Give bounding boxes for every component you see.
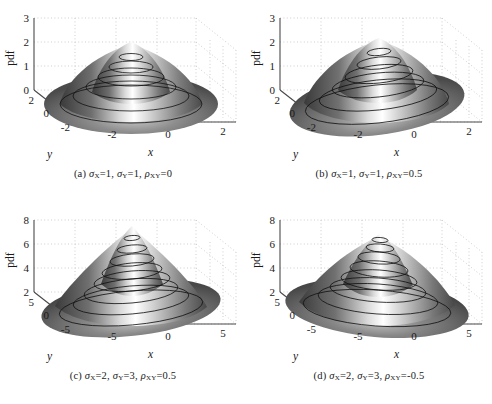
panel-d-ytick-0: 5 [275, 296, 281, 308]
panel-d-xtick-2: 5 [466, 327, 472, 339]
panel-c-ztick-2: 6 [24, 238, 30, 250]
panel-b-ytick-2: -2 [307, 121, 316, 133]
panel-a-sigma-x-value: =1, [100, 168, 114, 179]
panel-d-xtick-1: 0 [411, 330, 417, 342]
panel-a-ytick-1: 0 [44, 107, 50, 119]
panel-c-ztick-3: 8 [24, 214, 30, 226]
panel-b-z-ticks: 3 2 1 0 [270, 12, 276, 96]
panel-a-y-axis-label: y [46, 148, 53, 161]
panel-b-caption-prefix: (b) [315, 168, 328, 179]
panel-c-x-axis-label: x [147, 348, 154, 360]
figure-panel-grid: 3 2 1 0 2 0 -2 -2 0 2 pdf y [0, 0, 492, 404]
panel-a-plot: 3 2 1 0 2 0 -2 -2 0 2 pdf y [0, 0, 246, 170]
panel-d-xtick-0: -5 [353, 330, 363, 342]
panel-b-y-axis-label: y [292, 148, 299, 161]
panel-b: 3 2 1 0 2 0 -2 -2 0 2 pdf y x [246, 0, 492, 202]
panel-d-ztick-1: 4 [270, 262, 276, 274]
panel-b-rho-value: =0.5 [403, 168, 423, 179]
panel-a-rho-value: =0 [161, 168, 173, 179]
panel-c-y-axis-label: y [46, 350, 53, 363]
panel-c-z-ticks: 8 6 4 2 [24, 214, 30, 298]
panel-c-caption: (c) σX=2, σY=3, ρXY=0.5 [0, 370, 246, 382]
panel-b-ytick-1: 0 [290, 107, 296, 119]
panel-a-rho-sub: XY [150, 172, 161, 180]
panel-d-ytick-1: 0 [290, 309, 296, 321]
panel-c-xtick-0: -5 [107, 330, 117, 342]
panel-b-surface-upper [338, 38, 417, 103]
panel-c-rho-sub: XY [146, 374, 157, 382]
panel-c-rho-value: =0.5 [156, 370, 176, 381]
panel-c-caption-prefix: (c) [70, 370, 82, 381]
panel-d: 8 6 4 2 5 0 -5 -5 0 5 pdf y x [246, 202, 492, 404]
panel-a-xtick-0: -2 [107, 128, 116, 140]
panel-a-xtick-1: 0 [165, 128, 171, 140]
panel-c-ytick-1: 0 [44, 309, 50, 321]
panel-d-caption: (d) σX=2, σY=3, ρXY=-0.5 [246, 370, 492, 382]
panel-d-z-ticks: 8 6 4 2 [270, 214, 276, 298]
panel-c-xtick-2: 5 [220, 327, 226, 339]
panel-b-xtick-1: 0 [411, 128, 417, 140]
panel-d-plot: 8 6 4 2 5 0 -5 -5 0 5 pdf y x [246, 202, 492, 372]
panel-b-z-axis-label: pdf [250, 50, 263, 66]
panel-d-sigma-x-value: =2, [340, 370, 354, 381]
panel-a: 3 2 1 0 2 0 -2 -2 0 2 pdf y [0, 0, 246, 202]
panel-d-sigma-y-value: =3, [368, 370, 382, 381]
panel-d-ztick-3: 8 [270, 214, 276, 226]
panel-a-ytick-0: 2 [29, 94, 35, 106]
panel-a-caption-prefix: (a) [74, 168, 86, 179]
panel-c-sigma-x-value: =2, [96, 370, 110, 381]
panel-c-sigma-y-value: =3, [123, 370, 137, 381]
panel-d-ytick-2: -5 [307, 323, 317, 335]
panel-d-ztick-2: 6 [270, 238, 276, 250]
panel-a-x-axis-label: x [147, 146, 154, 158]
panel-b-xtick-2: 2 [466, 125, 472, 137]
panel-b-plot: 3 2 1 0 2 0 -2 -2 0 2 pdf y x [246, 0, 492, 170]
panel-d-rho-sub: XY [390, 374, 401, 382]
panel-c-xtick-1: 0 [165, 330, 171, 342]
panel-b-caption: (b) σX=1, σY=1, ρXY=0.5 [246, 168, 492, 180]
panel-c: 8 6 4 2 5 0 -5 -5 0 5 pdf y x [0, 202, 246, 404]
panel-c-ytick-2: -5 [61, 323, 71, 335]
panel-b-ztick-3: 3 [270, 12, 276, 24]
panel-b-ztick-2: 2 [270, 36, 276, 48]
panel-a-ytick-2: -2 [61, 121, 70, 133]
panel-a-ztick-3: 3 [24, 12, 30, 24]
panel-a-xtick-2: 2 [220, 125, 226, 137]
panel-a-sigma-y-value: =1, [128, 168, 142, 179]
panel-c-z-axis-label: pdf [4, 252, 17, 268]
panel-d-rho-value: =-0.5 [401, 370, 425, 381]
panel-b-x-axis-label: x [393, 146, 400, 158]
panel-b-sigma-y-value: =1, [370, 168, 384, 179]
panel-a-ztick-2: 2 [24, 36, 30, 48]
panel-a-ztick-1: 1 [24, 60, 30, 72]
panel-a-z-ticks: 3 2 1 0 [24, 12, 30, 96]
panel-b-rho-sub: XY [392, 172, 403, 180]
panel-c-ytick-0: 5 [29, 296, 35, 308]
panel-c-ztick-1: 4 [24, 262, 30, 274]
panel-b-ytick-0: 2 [275, 94, 281, 106]
panel-b-ztick-1: 1 [270, 60, 276, 72]
panel-d-z-axis-label: pdf [250, 252, 263, 268]
panel-a-z-axis-label: pdf [4, 50, 17, 66]
panel-a-caption: (a) σX=1, σY=1, ρXY=0 [0, 168, 246, 180]
panel-d-y-axis-label: y [292, 350, 299, 363]
panel-c-plot: 8 6 4 2 5 0 -5 -5 0 5 pdf y x [0, 202, 246, 372]
panel-b-sigma-x-value: =1, [342, 168, 356, 179]
panel-d-caption-prefix: (d) [314, 370, 327, 381]
panel-b-xtick-0: -2 [353, 128, 362, 140]
panel-d-x-axis-label: x [393, 348, 400, 360]
